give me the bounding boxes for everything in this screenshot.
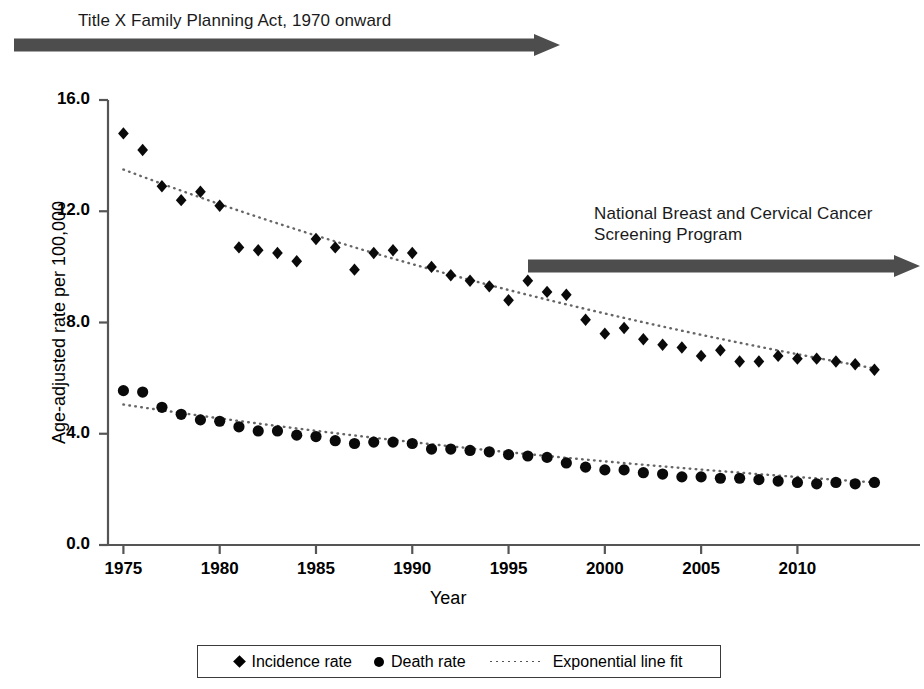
death-data-point	[753, 474, 764, 485]
death-data-point	[715, 473, 726, 484]
diamond-marker-icon	[234, 655, 247, 668]
death-data-point	[830, 477, 841, 488]
x-tick-label: 2000	[575, 559, 635, 579]
incidence-rate-points	[118, 127, 880, 376]
incidence-data-point	[426, 261, 437, 273]
incidence-data-point	[754, 355, 765, 367]
incidence-data-point	[657, 339, 668, 351]
incidence-data-point	[176, 194, 187, 206]
incidence-data-point	[850, 358, 861, 370]
legend-item-death-rate: Death rate	[374, 653, 466, 671]
legend-item-exponential-fit: Exponential line fit	[488, 653, 683, 671]
incidence-data-point	[600, 327, 611, 339]
x-tick-label: 1985	[286, 559, 346, 579]
incidence-data-point	[831, 355, 842, 367]
incidence-data-point	[522, 275, 533, 287]
incidence-data-point	[484, 280, 495, 292]
incidence-data-point	[137, 144, 148, 156]
incidence-data-point	[234, 241, 245, 253]
x-tick-label: 1975	[93, 559, 153, 579]
death-data-point	[464, 445, 475, 456]
incidence-data-point	[580, 314, 591, 326]
death-data-point	[445, 443, 456, 454]
y-tick-label: 16.0	[30, 89, 90, 109]
death-data-point	[407, 438, 418, 449]
death-data-point	[156, 402, 167, 413]
y-tick-label: 0.0	[30, 534, 90, 554]
circle-marker-icon	[374, 657, 384, 667]
figure-root: Title X Family Planning Act, 1970 onward…	[0, 0, 924, 689]
death-data-point	[368, 436, 379, 447]
incidence-data-point	[677, 341, 688, 353]
death-data-point	[195, 414, 206, 425]
incidence-data-point	[214, 199, 225, 211]
death-data-point	[176, 409, 187, 420]
death-data-point	[137, 386, 148, 397]
x-axis-title: Year	[430, 588, 466, 609]
annotation-arrows	[14, 34, 920, 277]
death-data-point	[676, 471, 687, 482]
incidence-data-point	[715, 344, 726, 356]
incidence-data-point	[407, 247, 418, 259]
death-data-point	[696, 471, 707, 482]
death-data-point	[657, 468, 668, 479]
death-data-point	[599, 464, 610, 475]
death-data-point	[618, 464, 629, 475]
death-data-point	[734, 473, 745, 484]
death-data-point	[811, 478, 822, 489]
exponential-fit-line	[123, 405, 874, 483]
y-tick-label: 4.0	[30, 423, 90, 443]
incidence-data-point	[349, 263, 360, 275]
death-data-point	[869, 477, 880, 488]
right-arrow-icon	[14, 34, 560, 56]
incidence-data-point	[638, 333, 649, 345]
death-data-point	[426, 443, 437, 454]
incidence-data-point	[465, 275, 476, 287]
chart-legend: Incidence rate Death rate Exponential li…	[197, 645, 721, 678]
incidence-data-point	[118, 127, 129, 139]
death-data-point	[792, 477, 803, 488]
incidence-data-point	[869, 364, 880, 376]
incidence-data-point	[291, 255, 302, 267]
death-data-point	[253, 425, 264, 436]
incidence-data-point	[503, 294, 514, 306]
death-data-point	[522, 450, 533, 461]
death-data-point	[233, 421, 244, 432]
death-data-point	[349, 438, 360, 449]
death-data-point	[387, 436, 398, 447]
x-tick-label: 1980	[190, 559, 250, 579]
y-tick-label: 12.0	[30, 200, 90, 220]
legend-label-exponential-fit: Exponential line fit	[553, 653, 683, 671]
incidence-data-point	[253, 244, 264, 256]
death-data-point	[291, 430, 302, 441]
incidence-data-point	[272, 247, 283, 259]
incidence-data-point	[368, 247, 379, 259]
exponential-fit-lines	[123, 170, 874, 483]
incidence-data-point	[811, 352, 822, 364]
death-data-point	[580, 462, 591, 473]
death-data-point	[850, 478, 861, 489]
x-tick-label: 2005	[671, 559, 731, 579]
right-arrow-icon	[528, 255, 920, 277]
death-data-point	[330, 435, 341, 446]
chart-canvas	[0, 0, 924, 689]
legend-label-death-rate: Death rate	[391, 653, 466, 671]
death-data-point	[272, 425, 283, 436]
death-data-point	[561, 457, 572, 468]
legend-item-incidence-rate: Incidence rate	[235, 653, 352, 671]
death-data-point	[484, 446, 495, 457]
x-tick-label: 2010	[767, 559, 827, 579]
incidence-data-point	[619, 322, 630, 334]
incidence-data-point	[696, 350, 707, 362]
dotted-line-icon	[488, 660, 544, 663]
incidence-data-point	[561, 288, 572, 300]
incidence-data-point	[734, 355, 745, 367]
legend-label-incidence-rate: Incidence rate	[251, 653, 352, 671]
death-rate-points	[118, 385, 880, 489]
y-tick-label: 8.0	[30, 312, 90, 332]
incidence-data-point	[388, 244, 399, 256]
incidence-data-point	[311, 233, 322, 245]
death-data-point	[214, 416, 225, 427]
death-data-point	[773, 475, 784, 486]
death-data-point	[503, 449, 514, 460]
